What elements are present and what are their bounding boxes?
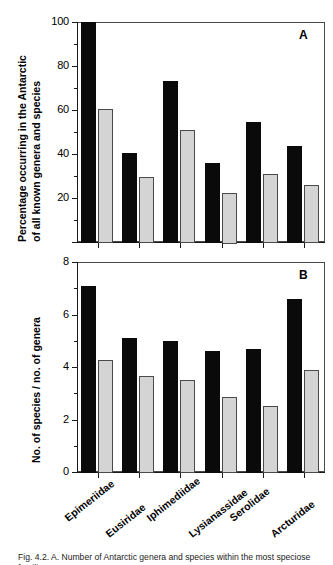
x-axis-category-label: Arcturidae: [268, 498, 317, 540]
bar: [287, 146, 302, 243]
panel-letter-a: A: [299, 28, 308, 42]
y-axis-tick-minor: [74, 44, 78, 45]
x-axis-tick: [139, 243, 140, 248]
bar: [163, 341, 178, 473]
bar: [205, 163, 220, 243]
bar: [287, 299, 302, 473]
x-axis-category-label: Iphimediidae: [144, 474, 202, 523]
x-axis-tick: [98, 243, 99, 248]
y-axis-tick-major: [72, 315, 78, 316]
y-axis-title-b: No. of species / no. of genera: [30, 317, 43, 463]
y-axis-tick-minor: [74, 393, 78, 394]
bar: [122, 338, 137, 473]
x-axis-categories: EpimeriidaeEusiridaeIphimediidaeLysianas…: [0, 472, 333, 552]
bar: [81, 22, 96, 243]
bar: [222, 397, 237, 473]
y-axis-tick-label: 80: [31, 60, 69, 71]
x-axis-tick: [304, 243, 305, 248]
x-axis-tick: [222, 243, 223, 248]
bar: [139, 177, 154, 243]
bar: [139, 376, 154, 473]
y-axis-tick-major: [72, 262, 78, 263]
y-axis-tick-label: 100: [31, 16, 69, 27]
x-axis-tick: [180, 243, 181, 248]
y-axis-tick-minor: [74, 341, 78, 342]
bar: [263, 406, 278, 473]
figure-caption: Fig. 4.2. A. Number of Antarctic genera …: [18, 552, 318, 565]
panel-letter-b: B: [299, 268, 308, 282]
bar: [163, 81, 178, 243]
bar: [263, 174, 278, 243]
y-axis-tick-minor: [74, 176, 78, 177]
y-axis-tick-minor: [74, 446, 78, 447]
y-axis-tick-major: [72, 22, 78, 23]
y-axis-tick-major: [72, 66, 78, 67]
y-axis-tick-major: [72, 154, 78, 155]
bar: [246, 122, 261, 243]
y-axis-tick-minor: [74, 220, 78, 221]
bar: [246, 349, 261, 473]
x-axis-tick: [263, 243, 264, 248]
y-axis-tick-minor: [74, 88, 78, 89]
bar: [304, 370, 319, 473]
bar: [222, 193, 237, 244]
bar: [180, 380, 195, 473]
y-axis-tick-major: [72, 367, 78, 368]
bar: [81, 286, 96, 473]
y-axis-tick-major: [72, 110, 78, 111]
y-axis-tick-major: [72, 420, 78, 421]
bar: [304, 185, 319, 243]
y-axis-tick-major: [72, 198, 78, 199]
figure-root: A 20406080100 Percentage occurring in th…: [0, 0, 333, 565]
y-axis-tick-minor: [74, 132, 78, 133]
bar: [98, 109, 113, 243]
bar: [205, 351, 220, 473]
bar: [98, 360, 113, 473]
bar: [180, 130, 195, 243]
y-axis-title-a-line1: Percentage occurring in the Antarctic: [16, 55, 29, 242]
y-axis-title-a-line2: of all known genera and species: [30, 81, 43, 242]
y-axis-tick-label: 8: [31, 256, 69, 267]
bar: [122, 153, 137, 243]
x-axis-category-label: Epimeriidae: [62, 477, 116, 523]
y-axis-tick-minor: [74, 288, 78, 289]
x-axis-category-label: Eusiridae: [103, 501, 148, 540]
y-axis-tick-major: [72, 242, 78, 243]
